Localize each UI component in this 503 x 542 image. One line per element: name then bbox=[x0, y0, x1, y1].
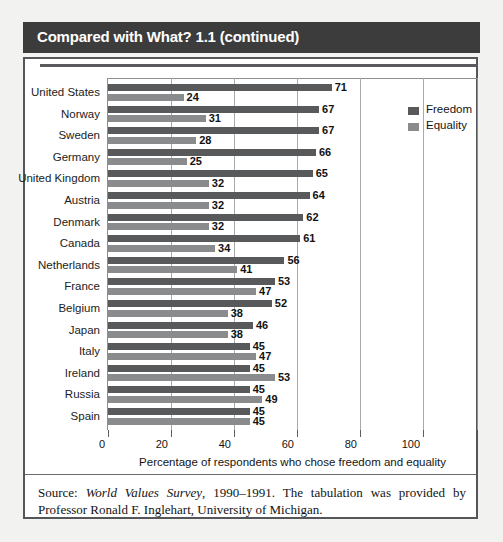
x-tick-mark-20 bbox=[171, 430, 172, 437]
bar-freedom bbox=[108, 408, 250, 415]
bar-value-label: 32 bbox=[212, 179, 224, 188]
bar-value-label: 64 bbox=[313, 191, 325, 200]
figure-box: Compared with What? 1.1 (continued) Unit… bbox=[0, 0, 503, 542]
bar-equality bbox=[108, 202, 209, 209]
bar-equality bbox=[108, 418, 250, 425]
category-label: Ireland bbox=[8, 367, 100, 379]
bar-value-label: 41 bbox=[240, 265, 252, 274]
x-tick-label-100: 100 bbox=[402, 438, 420, 450]
x-tick-mark-60 bbox=[297, 430, 298, 437]
bar-equality bbox=[108, 180, 209, 187]
category-label: Japan bbox=[8, 324, 100, 336]
category-label: Germany bbox=[8, 151, 100, 163]
bar-value-label: 45 bbox=[253, 385, 265, 394]
bar-equality bbox=[108, 158, 187, 165]
bar-freedom bbox=[108, 386, 250, 393]
category-label: Netherlands bbox=[8, 259, 100, 271]
x-tick-label-20: 20 bbox=[156, 438, 168, 450]
source-prefix: Source: bbox=[38, 485, 86, 500]
category-label: Belgium bbox=[8, 302, 100, 314]
bar-equality bbox=[108, 310, 228, 317]
category-label: Russia bbox=[8, 388, 100, 400]
category-label: Italy bbox=[8, 345, 100, 357]
bar-equality bbox=[108, 353, 256, 360]
source-separator bbox=[25, 474, 476, 475]
bar-freedom bbox=[108, 300, 272, 307]
bar-equality bbox=[108, 245, 215, 252]
x-tick-mark-0 bbox=[108, 430, 109, 437]
bar-value-label: 32 bbox=[212, 201, 224, 210]
bar-value-label: 45 bbox=[253, 364, 265, 373]
category-label: United Kingdom bbox=[8, 172, 100, 184]
bar-value-label: 31 bbox=[209, 114, 221, 123]
bar-equality bbox=[108, 94, 184, 101]
x-tick-label-80: 80 bbox=[345, 438, 357, 450]
bar-equality bbox=[108, 396, 262, 403]
bar-value-label: 32 bbox=[212, 222, 224, 231]
bar-value-label: 46 bbox=[256, 321, 268, 330]
bar-equality bbox=[108, 374, 275, 381]
bar-value-label: 53 bbox=[278, 373, 290, 382]
bar-freedom bbox=[108, 192, 310, 199]
bar-value-label: 67 bbox=[322, 126, 334, 135]
bar-value-label: 45 bbox=[253, 417, 265, 426]
bar-equality bbox=[108, 137, 196, 144]
bar-equality bbox=[108, 223, 209, 230]
legend-swatch-freedom-icon bbox=[408, 107, 419, 115]
bar-value-label: 38 bbox=[231, 309, 243, 318]
bar-value-label: 28 bbox=[199, 136, 211, 145]
category-label: Sweden bbox=[8, 129, 100, 141]
bar-value-label: 24 bbox=[187, 93, 199, 102]
bar-equality bbox=[108, 288, 256, 295]
bar-value-label: 47 bbox=[259, 287, 271, 296]
bar-value-label: 52 bbox=[275, 299, 287, 308]
bar-freedom bbox=[108, 170, 313, 177]
bar-value-label: 53 bbox=[278, 277, 290, 286]
bar-equality bbox=[108, 331, 228, 338]
bar-freedom bbox=[108, 149, 316, 156]
bar-equality bbox=[108, 115, 206, 122]
bar-freedom bbox=[108, 84, 332, 91]
bar-value-label: 56 bbox=[287, 256, 299, 265]
legend-label-equality: Equality bbox=[426, 119, 467, 131]
legend-swatch-equality-icon bbox=[408, 123, 419, 131]
source-note: Source: World Values Survey, 1990–1991. … bbox=[38, 484, 466, 518]
x-tick-mark-40 bbox=[234, 430, 235, 437]
x-axis-title: Percentage of respondents who chose free… bbox=[107, 456, 478, 468]
bar-freedom bbox=[108, 257, 284, 264]
bar-value-label: 38 bbox=[231, 330, 243, 339]
category-label: United States bbox=[8, 86, 100, 98]
bar-value-label: 71 bbox=[335, 83, 347, 92]
bar-value-label: 47 bbox=[259, 352, 271, 361]
bar-value-label: 25 bbox=[190, 157, 202, 166]
bar-freedom bbox=[108, 235, 300, 242]
category-label: Austria bbox=[8, 194, 100, 206]
x-tick-mark-100 bbox=[423, 430, 424, 437]
bar-value-label: 49 bbox=[265, 395, 277, 404]
category-label: Norway bbox=[8, 108, 100, 120]
bar-equality bbox=[108, 266, 237, 273]
bar-freedom bbox=[108, 214, 303, 221]
bar-freedom bbox=[108, 127, 319, 134]
x-tick-label-0: 0 bbox=[99, 438, 105, 450]
legend-label-freedom: Freedom bbox=[426, 103, 472, 115]
bar-value-label: 62 bbox=[306, 213, 318, 222]
bar-value-label: 34 bbox=[218, 244, 230, 253]
bar-value-label: 61 bbox=[303, 234, 315, 243]
source-title: World Values Survey bbox=[86, 485, 202, 500]
category-label: France bbox=[8, 280, 100, 292]
x-tick-label-60: 60 bbox=[282, 438, 294, 450]
category-label: Canada bbox=[8, 237, 100, 249]
category-label: Spain bbox=[8, 410, 100, 422]
bar-value-label: 65 bbox=[316, 169, 328, 178]
category-label: Denmark bbox=[8, 216, 100, 228]
x-tick-label-40: 40 bbox=[219, 438, 231, 450]
bar-value-label: 67 bbox=[322, 105, 334, 114]
x-tick-mark-80 bbox=[360, 430, 361, 437]
bar-freedom bbox=[108, 278, 275, 285]
bar-freedom bbox=[108, 343, 250, 350]
bar-freedom bbox=[108, 365, 250, 372]
bar-value-label: 66 bbox=[319, 148, 331, 157]
